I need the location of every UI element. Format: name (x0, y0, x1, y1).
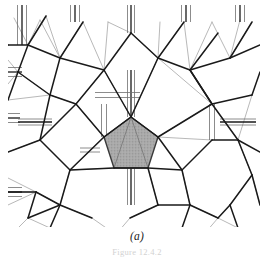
figure-page: (a) Figure 12.4.2 (0, 0, 274, 257)
tiling-figure-panel (0, 0, 274, 232)
figure-background (0, 0, 274, 232)
figure-caption-partial: Figure 12.4.2 (0, 247, 274, 257)
tiling-network-diagram (0, 0, 274, 232)
panel-label: (a) (0, 230, 274, 242)
